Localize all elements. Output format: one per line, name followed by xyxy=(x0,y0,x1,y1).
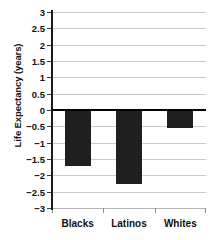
y-axis-tick-label: 1.5 xyxy=(32,56,45,67)
x-axis-category-blacks: Blacks xyxy=(52,218,103,229)
y-axis-tick-label: 0 xyxy=(40,105,45,116)
gridline xyxy=(52,192,206,193)
y-axis-tick-label: 3 xyxy=(40,7,45,18)
bar-whites xyxy=(167,110,193,128)
zero-line xyxy=(52,109,206,111)
y-axis-tick-label: −2 xyxy=(34,170,45,181)
gridline xyxy=(52,94,206,95)
x-axis-tick xyxy=(103,208,104,213)
y-axis-tick-label: 0.5 xyxy=(32,88,45,99)
gridline xyxy=(52,12,206,13)
plot-area: 32.521.510.50−0.5−1−1.5−2−2.5−3 xyxy=(52,12,206,208)
y-axis-tick-label: 1 xyxy=(40,72,45,83)
y-axis-tick-label: −1 xyxy=(34,137,45,148)
gridline xyxy=(52,45,206,46)
y-axis-tick-label: −2.5 xyxy=(26,186,45,197)
bar-latinos xyxy=(116,110,142,184)
y-axis-tick-label: 2 xyxy=(40,39,45,50)
gridline xyxy=(52,28,206,29)
y-axis-tick-label: 2.5 xyxy=(32,23,45,34)
y-axis-tick-label: −0.5 xyxy=(26,121,45,132)
y-axis-tick-label: −3 xyxy=(34,203,45,214)
gridline xyxy=(52,77,206,78)
bar-chart: Life Expectancy (years) 32.521.510.50−0.… xyxy=(0,0,214,240)
x-axis-category-latinos: Latinos xyxy=(103,218,154,229)
y-axis-line xyxy=(51,10,53,210)
y-axis-title: Life Expectancy (years) xyxy=(12,16,23,176)
gridline xyxy=(52,61,206,62)
x-axis-tick xyxy=(205,208,206,213)
x-axis-tick xyxy=(155,208,156,213)
x-axis-category-whites: Whites xyxy=(155,218,206,229)
x-axis-line xyxy=(52,208,206,209)
bar-blacks xyxy=(65,110,91,166)
y-axis-tick-label: −1.5 xyxy=(26,154,45,165)
